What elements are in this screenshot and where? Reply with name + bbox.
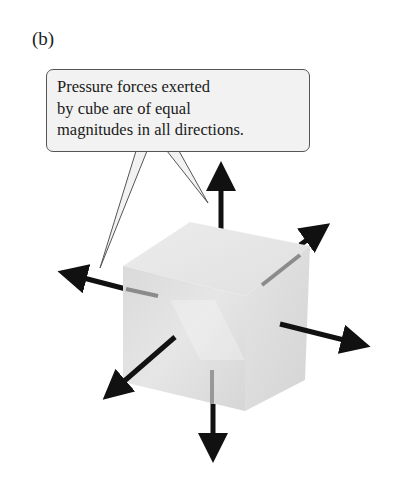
callout-tail-right (167, 151, 208, 203)
panel-label: (b) (32, 28, 54, 50)
callout-line-1: Pressure forces exerted (57, 76, 299, 98)
callout-box: Pressure forces exerted by cube are of e… (46, 69, 310, 152)
arrow-left (72, 275, 126, 289)
arrow-back-right (300, 232, 318, 245)
callout-tail-left (100, 151, 147, 268)
cube (123, 222, 310, 411)
callout-line-2: by cube are of equal (57, 98, 299, 120)
callout-line-3: magnitudes in all directions. (57, 119, 299, 141)
